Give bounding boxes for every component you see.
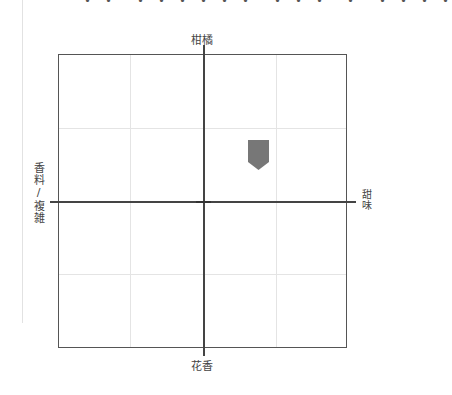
origin-tick (196, 201, 211, 204)
flavor-marker-icon[interactable] (248, 140, 269, 170)
axis-label-right: 甜味 (358, 189, 373, 211)
page-margin-rule (22, 0, 23, 323)
axis-label-bottom: 花香 (191, 357, 213, 373)
axis-label-top: 柑橘 (191, 31, 213, 47)
axis-label-left: 香料/複雑 (30, 162, 46, 224)
page-title-clipped: ・・ ・・・・・・ ・・・ ・ ・・・・ (80, 0, 452, 10)
